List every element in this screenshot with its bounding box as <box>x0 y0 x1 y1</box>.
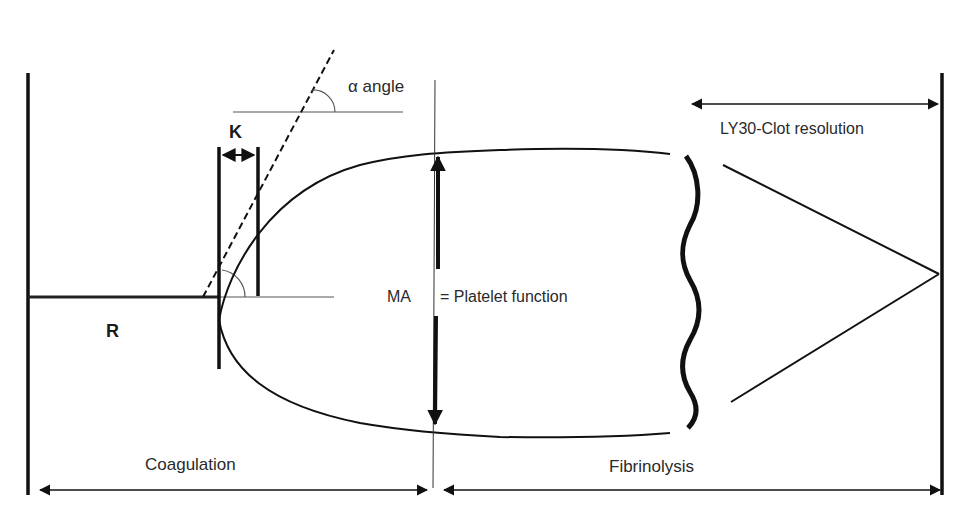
r-label: R <box>106 321 119 341</box>
fibrinolysis-label: Fibrinolysis <box>609 457 694 476</box>
platelet-function-label: = Platelet function <box>440 288 568 305</box>
time-break-wavy-line <box>683 156 700 428</box>
ma-arrow-down <box>435 316 436 424</box>
ly30-label: LY30-Clot resolution <box>720 120 864 137</box>
alpha-angle-arc-upper <box>312 90 335 112</box>
alpha-angle-label: α angle <box>348 77 404 96</box>
ma-label: MA <box>387 288 411 305</box>
lysis-line-lower <box>731 274 939 402</box>
lysis-line-upper <box>723 165 939 274</box>
teg-diagram: α angle K R MA = Platelet function LY30-… <box>0 0 971 517</box>
teg-curve-lower <box>219 320 670 437</box>
k-label: K <box>229 122 242 142</box>
coagulation-label: Coagulation <box>145 455 236 474</box>
alpha-tangent-line <box>203 50 334 297</box>
ma-divider-line <box>433 80 435 488</box>
